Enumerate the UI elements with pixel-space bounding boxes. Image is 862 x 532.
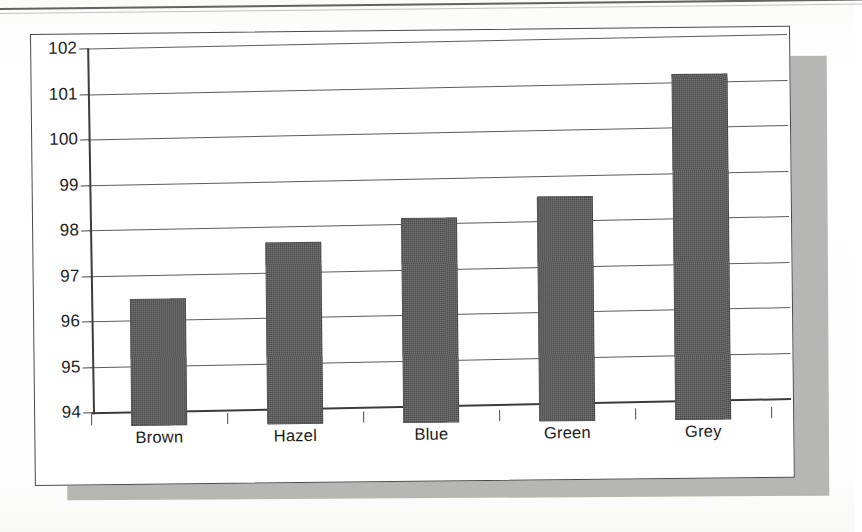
x-tick-origin (91, 414, 93, 425)
bar-blue (401, 218, 459, 423)
y-axis-label-98: 98 (37, 220, 79, 240)
bar-hazel (265, 242, 323, 425)
y-axis-tick-labels: 949596979899100101102 (31, 48, 81, 412)
x-axis-label-blue: Blue (371, 424, 491, 444)
x-tick-5 (771, 407, 773, 418)
y-axis-label-100: 100 (36, 129, 78, 149)
bar-grey (671, 74, 731, 420)
y-axis-label-96: 96 (38, 311, 80, 331)
x-axis-label-brown: Brown (99, 427, 219, 447)
x-axis-label-grey: Grey (643, 421, 763, 441)
bars-group (87, 41, 771, 414)
x-axis-label-green: Green (507, 423, 627, 443)
y-axis-label-97: 97 (38, 266, 80, 286)
y-axis-label-99: 99 (37, 175, 79, 195)
bar-green (537, 196, 595, 422)
x-tick-1 (227, 413, 229, 424)
chart-card: 949596979899100101102 BrownHazelBlueGree… (30, 26, 795, 486)
x-axis-label-hazel: Hazel (235, 426, 355, 446)
y-axis-label-101: 101 (36, 84, 78, 104)
bar-brown (130, 298, 187, 426)
x-tick-3 (499, 410, 501, 421)
x-tick-2 (363, 411, 365, 422)
chart-figure: 949596979899100101102 BrownHazelBlueGree… (31, 27, 796, 487)
y-axis-ticks-group (31, 27, 791, 35)
y-axis-label-102: 102 (35, 38, 77, 58)
y-axis-label-95: 95 (39, 357, 81, 377)
gridlines-group (31, 27, 791, 35)
x-axis-tick-labels: BrownHazelBlueGreenGrey (91, 421, 781, 456)
x-tick-4 (635, 408, 637, 419)
y-axis-label-94: 94 (39, 402, 81, 422)
